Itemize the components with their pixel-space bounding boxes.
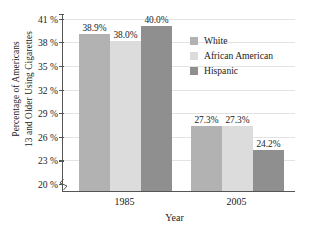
- x-axis-tick-label: 2005: [227, 196, 247, 207]
- x-axis-tick-label: 1985: [115, 196, 135, 207]
- legend-item: Hispanic: [190, 63, 302, 78]
- y-axis-tick-label: 38 %: [38, 37, 58, 48]
- bar: 24.2%: [253, 150, 284, 191]
- bar: 38.9%: [79, 34, 110, 191]
- x-axis-title: Year: [0, 212, 313, 223]
- bar: 27.3%: [222, 126, 253, 191]
- y-axis-tick-label: 41 %: [38, 13, 58, 24]
- legend-label: White: [204, 35, 227, 46]
- legend-swatch: [190, 52, 198, 60]
- bar-value-label: 40.0%: [144, 15, 168, 25]
- legend-swatch: [190, 67, 198, 75]
- y-axis-tick-label: 29 %: [38, 108, 58, 119]
- bar: 27.3%: [191, 126, 222, 191]
- bar-value-label: 38.0%: [113, 30, 137, 40]
- bar: 38.0%: [110, 41, 141, 191]
- bar-value-label: 38.9%: [82, 23, 106, 33]
- legend-label: Hispanic: [204, 65, 238, 76]
- y-axis-title-line-1: Percentage of Americans: [10, 4, 23, 174]
- y-axis-tick-label: 35 %: [38, 60, 58, 71]
- y-axis-tick-label: 26 %: [38, 131, 58, 142]
- legend: WhiteAfrican AmericanHispanic: [190, 33, 302, 78]
- bar-chart: Percentage of Americans 13 and Older Usi…: [0, 0, 313, 238]
- x-axis-title-text: Year: [165, 212, 183, 223]
- y-axis-tick-label: 32 %: [38, 84, 58, 95]
- y-axis-tick-label: 23 %: [38, 155, 58, 166]
- y-axis-tick-label: 20 %: [38, 179, 58, 190]
- legend-swatch: [190, 37, 198, 45]
- y-axis-tick-labels: 20 %23 %26 %29 %32 %35 %38 %41 %: [24, 14, 58, 192]
- bar-value-label: 27.3%: [225, 115, 249, 125]
- legend-item: White: [190, 33, 302, 48]
- bar-value-label: 24.2%: [256, 139, 280, 149]
- legend-label: African American: [204, 50, 273, 61]
- bar: 40.0%: [141, 26, 172, 191]
- legend-item: African American: [190, 48, 302, 63]
- bar-value-label: 27.3%: [194, 115, 218, 125]
